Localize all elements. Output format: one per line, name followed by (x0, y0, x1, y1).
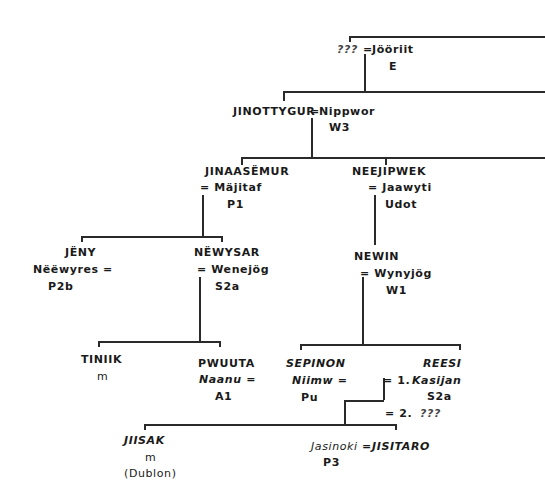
sepinon-spouse: Niimw = (292, 374, 348, 387)
line-gen3-tick-left (241, 157, 243, 165)
line-gen4-left-bar (81, 236, 222, 238)
gen1-code: E (389, 60, 397, 73)
line-gen5-tick-reesi (459, 344, 461, 350)
line-gen3-tick-right (385, 157, 387, 165)
neejipwek-code: Udot (385, 198, 417, 211)
line-gen1-tick (349, 36, 351, 42)
sepinon-code: Pu (301, 391, 318, 404)
line-gen5-tick-sepinon (300, 344, 302, 350)
reesi-spouse-2: ??? (420, 407, 441, 420)
newysar-name: NËWYSAR (194, 246, 260, 259)
pwuuta-spouse: Naanu = (199, 373, 256, 386)
reesi-spouse-1: Kasijan (412, 374, 462, 387)
line-gen2-descent (311, 118, 313, 157)
newin-name: NEWIN (354, 250, 399, 263)
gen2-code: W3 (329, 121, 350, 134)
neejipwek-spouse: = Jaawyti (368, 181, 432, 194)
jeny-spouse: Nëëwyres = (33, 263, 113, 276)
line-neejipwek-descent (374, 195, 376, 245)
newin-code: W1 (386, 284, 407, 297)
jisitaro-code: P3 (323, 456, 340, 469)
line-gen6-bar (144, 424, 396, 426)
line-gen5-left-bar (98, 341, 220, 343)
jinaasemur-name: JINAASËMUR (205, 165, 289, 178)
jeny-name: JËNY (65, 246, 96, 259)
line-gen5-tick-tiniik (98, 341, 100, 347)
tiniik-sub: m (97, 370, 108, 383)
jisitaro-name: JISITARO (372, 440, 430, 453)
jisitaro-eq: = (362, 440, 372, 453)
newin-spouse: = Wynyjög (360, 267, 432, 280)
jiisak-name: JIISAK (124, 434, 165, 447)
jinaasemur-spouse: = Mäjitaf (200, 181, 262, 194)
jisitaro-spouse: Jasinoki (311, 440, 358, 453)
sepinon-name: SEPINON (286, 357, 346, 370)
newysar-spouse: = Wenejög (197, 263, 269, 276)
reesi-marriage-2: = 2. (385, 407, 412, 420)
gen1-unknown: ??? (337, 43, 358, 56)
line-gen2-bar (283, 91, 545, 93)
tiniik-name: TINIIK (81, 353, 122, 366)
line-gen5-right-bar (300, 344, 460, 346)
line-newin-descent (362, 277, 364, 344)
line-gen4-tick-newysar (221, 236, 223, 242)
reesi-code-1: S2a (427, 390, 452, 403)
pwuuta-name: PWUUTA (198, 357, 255, 370)
gen2-spouse: Nippwor (319, 105, 375, 118)
jiisak-place: (Dublon) (124, 467, 177, 480)
neejipwek-name: NEEJIPWEK (352, 165, 426, 178)
line-gen2-tick (283, 91, 285, 101)
line-jinaasemur-descent (202, 195, 204, 236)
line-reesi-elbow (344, 400, 384, 402)
line-gen1-top (349, 36, 545, 38)
line-gen6-tick-jiisak (144, 424, 146, 430)
newysar-code: S2a (215, 280, 240, 293)
reesi-marriage-1: = 1. (383, 374, 410, 387)
line-gen5-tick-pwuuta (219, 341, 221, 347)
gen2-name: JINOTTYGUR (233, 105, 315, 118)
line-reesi-elbow-drop (344, 400, 346, 424)
reesi-name: REESI (423, 357, 462, 370)
line-gen4-tick-jeny (81, 236, 83, 242)
line-gen1-descent (364, 54, 366, 91)
jiisak-sub: m (145, 451, 156, 464)
jinaasemur-code: P1 (227, 198, 244, 211)
line-newysar-descent (199, 277, 201, 341)
line-gen6-tick-jisitaro (395, 424, 397, 430)
gen1-spouse: Jööriit (372, 43, 414, 56)
jeny-code: P2b (48, 280, 73, 293)
pwuuta-code: A1 (215, 390, 232, 403)
line-gen3-bar (241, 157, 545, 159)
